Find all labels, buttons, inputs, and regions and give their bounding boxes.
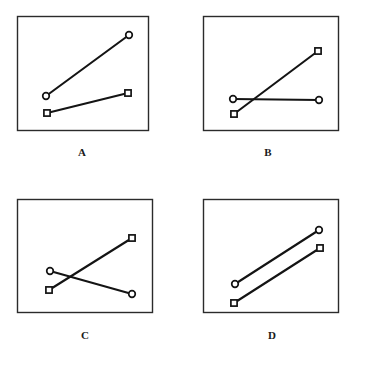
marker-square-b-right [315,48,321,54]
panels-group [18,17,339,313]
panel-label-c: C [65,330,105,341]
marker-square-a-left [44,110,50,116]
marker-circle-c-right [129,291,136,298]
marker-circle-d-left [232,281,239,288]
panel-d [204,200,339,313]
marker-circle-a-right [126,32,133,39]
interaction-plot-figure: ABCD [0,0,365,366]
panel-label-d: D [252,330,292,341]
marker-circle-b-left [230,96,237,103]
panel-c [18,200,153,313]
series-line-circle-b [233,99,319,100]
panel-b [204,17,339,131]
figure-canvas [0,0,365,366]
marker-circle-c-left [47,268,54,275]
marker-square-c-right [129,235,135,241]
marker-circle-a-left [43,93,50,100]
marker-square-c-left [46,287,52,293]
panel-frame-b [204,17,339,131]
marker-circle-b-right [316,97,323,104]
marker-square-d-left [231,300,237,306]
panel-label-b: B [248,147,288,158]
panel-label-a: A [62,147,102,158]
marker-circle-d-right [316,227,323,234]
marker-square-a-right [125,90,131,96]
panel-a [18,17,149,131]
marker-square-d-right [317,245,323,251]
panel-frame-d [204,200,339,313]
marker-square-b-left [231,111,237,117]
